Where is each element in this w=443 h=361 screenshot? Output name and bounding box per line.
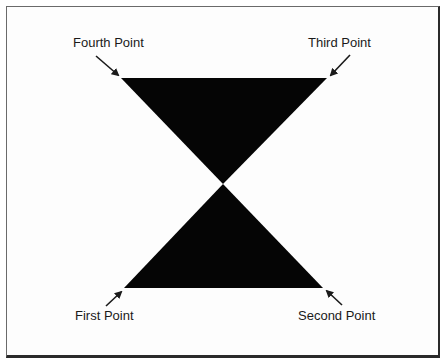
bowtie-diagram [0,0,443,361]
upper-triangle [121,78,327,184]
fourth-point-label: Fourth Point [73,35,144,50]
second-point-label: Second Point [298,308,375,323]
lower-triangle [124,184,323,288]
fourth-point-arrow [96,56,118,75]
third-point-label: Third Point [308,35,371,50]
third-point-arrow [331,55,350,75]
second-point-arrow [327,291,342,305]
first-point-arrow [106,292,121,306]
first-point-label: First Point [75,308,134,323]
